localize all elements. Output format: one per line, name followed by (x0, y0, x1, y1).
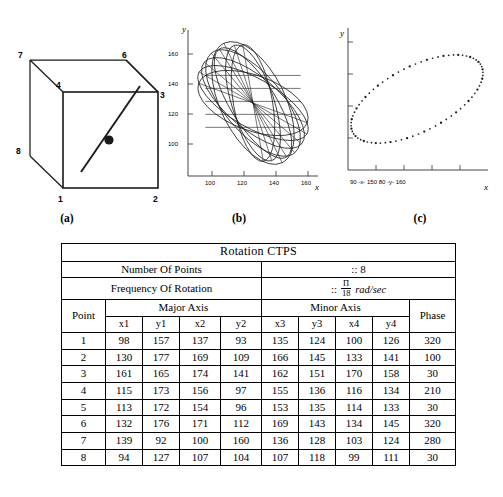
scatter-point (368, 92, 370, 94)
scatter-point (435, 125, 437, 127)
cell-phase: 30 (410, 399, 456, 416)
scatter-point (467, 100, 469, 102)
cell-x2: 100 (180, 432, 221, 449)
header-x2: x2 (180, 317, 221, 333)
table-meta-row-points: Number Of Points :: 8 (62, 261, 456, 278)
scatter-point (445, 119, 447, 121)
cube-svg: 7 6 4 3 8 1 2 (8, 30, 168, 205)
scatter-point (403, 68, 405, 70)
scatter-point (355, 107, 357, 109)
scatter-point (352, 115, 354, 117)
plot-c-axes (348, 28, 488, 170)
scatter-point (440, 122, 442, 124)
cube-vertex-label-4: 4 (56, 80, 61, 90)
table-row: 2130177169109166145133141100 (62, 349, 456, 366)
scatter-point (401, 139, 403, 141)
plot-c-point-cloud (350, 54, 484, 144)
plot-b-ytick-140: 140 (168, 81, 179, 87)
scatter-point (453, 54, 455, 56)
plot-c-xaxis-range-text: 90 -x- 150 80 -y- 160 (350, 179, 406, 185)
panel-b-ellipse-plot: 160 140 120 100 100 120 140 160 y x (158, 18, 323, 208)
cell-y3: 128 (299, 432, 336, 449)
scatter-point (471, 96, 473, 98)
cell-x3: 107 (262, 449, 299, 466)
cell-y4: 124 (373, 432, 410, 449)
cell-y4: 133 (373, 399, 410, 416)
scatter-point (482, 75, 484, 77)
scatter-point (473, 57, 475, 59)
cell-x1: 98 (106, 333, 143, 350)
plot-b-chords (199, 43, 308, 162)
cell-x1: 115 (106, 383, 143, 400)
scatter-plot-svg: y x 90 -x- 150 80 -y- 160 (322, 18, 500, 208)
cell-y1: 127 (143, 449, 180, 466)
cell-x4: 134 (336, 416, 373, 433)
cell-y1: 172 (143, 399, 180, 416)
cell-phase: 320 (410, 333, 456, 350)
frequency-of-rotation-value: :: Π 18 rad/sec (262, 278, 456, 300)
panel-c-scatter-plot: y x 90 -x- 150 80 -y- 160 (322, 18, 500, 208)
scatter-point (363, 140, 365, 142)
cube-vertex-label-1: 1 (58, 194, 63, 204)
table-subheader-row: x1 y1 x2 y2 x3 y3 x4 y4 (62, 317, 456, 333)
cell-y3: 143 (299, 416, 336, 433)
scatter-point (442, 55, 444, 57)
scatter-point (480, 81, 482, 83)
header-x4: x4 (336, 317, 373, 333)
scatter-point (389, 141, 391, 143)
scatter-point (457, 54, 459, 56)
scatter-point (448, 54, 450, 56)
cell-x4: 100 (336, 333, 373, 350)
scatter-point (450, 115, 452, 117)
scatter-point (373, 89, 375, 91)
scatter-point (377, 85, 379, 87)
cell-point: 2 (62, 349, 106, 366)
number-of-points-label: Number Of Points (62, 261, 262, 278)
cell-y3: 135 (299, 399, 336, 416)
scatter-point (420, 61, 422, 63)
scatter-point (395, 140, 397, 142)
scatter-point (481, 78, 483, 80)
scatter-point (466, 55, 468, 57)
panel-a-cube-diagram: 7 6 4 3 8 1 2 (8, 30, 168, 205)
cell-x1: 94 (106, 449, 143, 466)
cell-point: 7 (62, 432, 106, 449)
scatter-point (429, 128, 431, 130)
scatter-point (392, 74, 394, 76)
cell-y1: 92 (143, 432, 180, 449)
scatter-point (409, 65, 411, 67)
cell-x4: 103 (336, 432, 373, 449)
cell-y4: 134 (373, 383, 410, 400)
plot-b-ytick-160: 160 (168, 51, 179, 57)
cell-x2: 156 (180, 383, 221, 400)
panel-d-rotation-ctps-table: Rotation CTPS Number Of Points :: 8 Freq… (61, 243, 441, 466)
cell-x1: 130 (106, 349, 143, 366)
plot-b-xlabel: x (314, 182, 319, 192)
cube-vertex-label-8: 8 (16, 146, 21, 156)
frequency-unit: rad/sec (355, 284, 386, 295)
scatter-point (482, 71, 484, 73)
cell-x1: 113 (106, 399, 143, 416)
table-title: Rotation CTPS (62, 244, 456, 262)
cell-y2: 112 (221, 416, 262, 433)
header-y2: y2 (221, 317, 262, 333)
cell-y3: 124 (299, 333, 336, 350)
scatter-point (462, 54, 464, 56)
scatter-point (460, 108, 462, 110)
scatter-point (364, 96, 366, 98)
table-row: 6132176171112169143134145320 (62, 416, 456, 433)
header-y1: y1 (143, 317, 180, 333)
scatter-point (354, 135, 356, 137)
cell-y2: 96 (221, 399, 262, 416)
cell-point: 5 (62, 399, 106, 416)
cell-x3: 155 (262, 383, 299, 400)
scatter-point (477, 61, 479, 63)
header-x1: x1 (106, 317, 143, 333)
cell-y1: 157 (143, 333, 180, 350)
cell-y2: 104 (221, 449, 262, 466)
frequency-value-prefix: :: (331, 283, 337, 295)
cell-x2: 171 (180, 416, 221, 433)
scatter-point (357, 137, 359, 139)
scatter-point (426, 59, 428, 61)
cell-y1: 165 (143, 366, 180, 383)
